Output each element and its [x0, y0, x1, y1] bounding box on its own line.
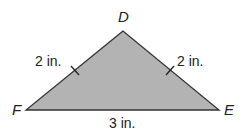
vertex-label-f: F — [12, 103, 21, 117]
side-label-de: 2 in. — [177, 54, 203, 68]
side-label-fe: 3 in. — [109, 116, 135, 130]
triangle-def-figure: D F E 2 in. 2 in. 3 in. — [0, 0, 242, 139]
triangle-def — [26, 31, 219, 110]
vertex-label-e: E — [224, 103, 234, 117]
vertex-label-d: D — [118, 10, 129, 24]
side-label-fd: 2 in. — [35, 54, 61, 68]
